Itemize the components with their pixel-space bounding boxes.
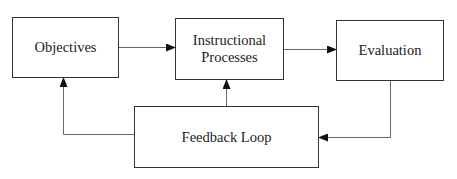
- node-label: Processes: [201, 49, 257, 66]
- node-label: Objectives: [34, 39, 96, 56]
- arrow-evaluation-to-feedback: [319, 81, 391, 138]
- node-instructional-processes: Instructional Processes: [175, 18, 284, 80]
- node-objectives: Objectives: [12, 17, 119, 78]
- node-label: Feedback Loop: [182, 129, 272, 146]
- arrow-feedback-to-objectives: [64, 78, 135, 135]
- node-label: Evaluation: [359, 42, 422, 59]
- node-evaluation: Evaluation: [336, 20, 444, 81]
- node-feedback-loop: Feedback Loop: [134, 106, 319, 168]
- node-label: Instructional: [193, 32, 266, 49]
